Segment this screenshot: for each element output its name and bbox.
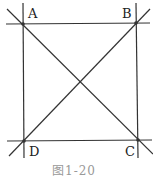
label-d: D <box>29 145 39 158</box>
diagonal-bd <box>9 9 150 156</box>
point-c <box>136 138 140 142</box>
label-b: B <box>122 7 132 20</box>
label-a: A <box>28 7 37 20</box>
label-c: C <box>125 145 135 158</box>
point-d <box>22 139 26 143</box>
point-b <box>134 21 138 25</box>
line-bc <box>136 3 138 158</box>
line-ab <box>6 23 150 24</box>
line-dc <box>7 140 152 141</box>
point-a <box>21 22 25 26</box>
figure-caption: 图1-20 <box>52 165 96 176</box>
